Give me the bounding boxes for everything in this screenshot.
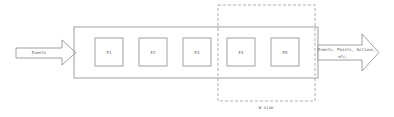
box-e1-label: E1 [95, 50, 123, 55]
input-arrow-label: Events [16, 50, 62, 55]
window-label: W size [246, 105, 286, 110]
output-arrow [318, 34, 379, 71]
box-e2-label: E2 [139, 50, 167, 55]
box-e5-label: E5 [271, 50, 299, 55]
output-arrow-label-line1: Events, Points, Actions, [318, 47, 368, 52]
box-e4-label: E4 [227, 50, 255, 55]
box-e3-label: E3 [183, 50, 211, 55]
output-arrow-label-line2: etc. [318, 54, 368, 59]
